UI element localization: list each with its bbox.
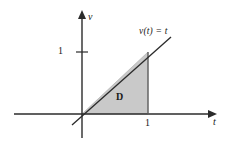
v-axis-tick-label-1: 1 [58,46,63,56]
v-axis-arrowhead [78,10,86,19]
region-d-shaded-area [82,52,148,114]
figure-container: v t 1 1 v(t) = t D [0,0,231,147]
coordinate-plot-svg [0,0,231,147]
region-d-label: D [116,92,123,102]
t-axis-tick-label-1: 1 [145,118,150,128]
t-axis-label: t [213,117,216,127]
v-axis-label: v [88,12,92,22]
function-equation-label: v(t) = t [139,27,168,37]
